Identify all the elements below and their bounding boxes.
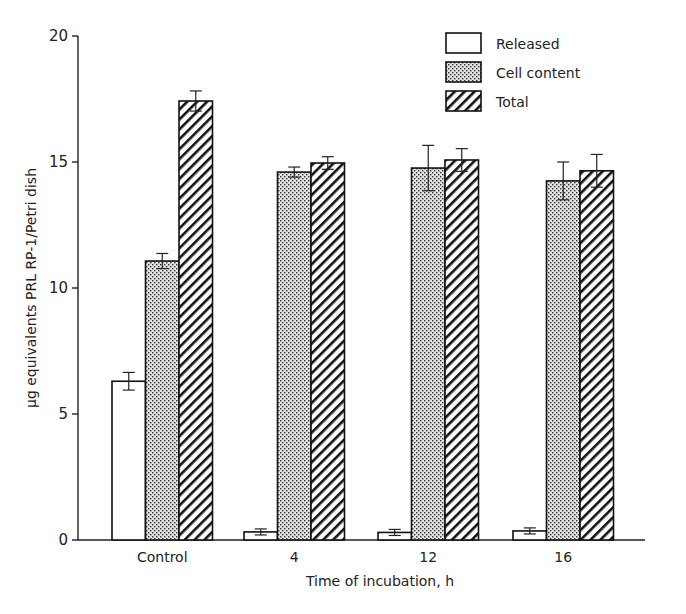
legend-item-released: Released xyxy=(446,33,560,53)
bar-total xyxy=(311,163,345,540)
bar-total xyxy=(179,101,213,540)
bar-group-4: 4 xyxy=(244,157,345,565)
y-tick-label: 10 xyxy=(49,279,68,297)
bar-group-control: Control xyxy=(112,91,213,565)
bar-cell-content xyxy=(278,172,312,540)
legend-label: Total xyxy=(495,94,529,110)
y-tick-label: 20 xyxy=(49,27,68,45)
legend-item-cell-content: Cell content xyxy=(446,62,581,82)
legend-label: Cell content xyxy=(496,65,581,81)
y-axis: 05101520 xyxy=(49,27,78,549)
y-tick-label: 15 xyxy=(49,153,68,171)
bar-released xyxy=(112,381,146,540)
bar-group-12: 12 xyxy=(378,145,479,565)
legend-swatch xyxy=(446,62,481,82)
y-axis-title: µg equivalents PRL RP-1/Petri dish xyxy=(23,168,39,408)
bar-total xyxy=(445,160,479,540)
bar-chart: 05101520 Control41216 ReleasedCell conte… xyxy=(0,0,686,614)
legend-swatch xyxy=(446,91,481,111)
y-tick-label: 5 xyxy=(58,405,68,423)
bars: Control41216 xyxy=(112,91,614,565)
legend-item-total: Total xyxy=(446,91,529,111)
bar-group-16: 16 xyxy=(513,154,614,565)
x-axis-title: Time of incubation, h xyxy=(305,573,454,589)
legend: ReleasedCell contentTotal xyxy=(446,33,581,111)
bar-total xyxy=(580,171,614,540)
x-tick-label: 16 xyxy=(554,549,572,565)
y-tick-label: 0 xyxy=(58,531,68,549)
bar-cell-content xyxy=(547,181,581,540)
legend-label: Released xyxy=(496,36,560,52)
x-tick-label: Control xyxy=(137,549,188,565)
legend-swatch xyxy=(446,33,481,53)
bar-cell-content xyxy=(146,261,180,540)
bar-cell-content xyxy=(412,168,446,540)
x-tick-label: 12 xyxy=(419,549,437,565)
x-tick-label: 4 xyxy=(290,549,299,565)
